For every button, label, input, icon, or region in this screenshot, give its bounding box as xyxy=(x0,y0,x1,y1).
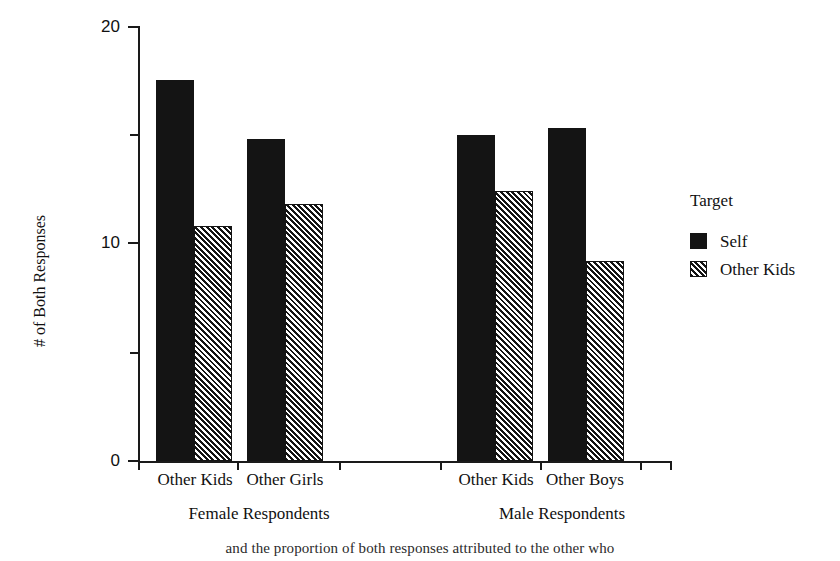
bar-male-other-boys-other xyxy=(586,261,624,461)
legend-item-other-kids[interactable]: Other Kids xyxy=(690,255,840,283)
group-label-female: Female Respondents xyxy=(159,504,359,523)
legend-label-self: Self xyxy=(720,232,747,251)
legend-item-self[interactable]: Self xyxy=(690,227,840,255)
bar-male-other-kids-other xyxy=(495,191,533,461)
x-label-male-other-boys: Other Boys xyxy=(505,470,665,489)
group-label-male: Male Respondents xyxy=(462,504,662,523)
bar-female-other-kids-self xyxy=(156,80,194,461)
legend: Target Self Other Kids xyxy=(690,191,840,283)
x-label-female-other-girls: Other Girls xyxy=(205,470,365,489)
bar-male-other-kids-self xyxy=(457,135,495,461)
legend-swatch-solid-icon xyxy=(690,233,707,249)
bar-female-other-girls-self xyxy=(247,139,285,461)
bar-chart-figure: 20 10 0 # of Both Responses Other Kids O… xyxy=(0,0,840,561)
bar-female-other-kids-other xyxy=(194,226,232,461)
bar-female-other-girls-other xyxy=(285,204,323,461)
legend-label-other-kids: Other Kids xyxy=(720,260,795,279)
legend-title: Target xyxy=(690,191,840,210)
legend-swatch-hatched-icon xyxy=(690,261,707,277)
bar-male-other-boys-self xyxy=(548,128,586,461)
bottom-caption: and the proportion of both responses att… xyxy=(0,540,840,561)
